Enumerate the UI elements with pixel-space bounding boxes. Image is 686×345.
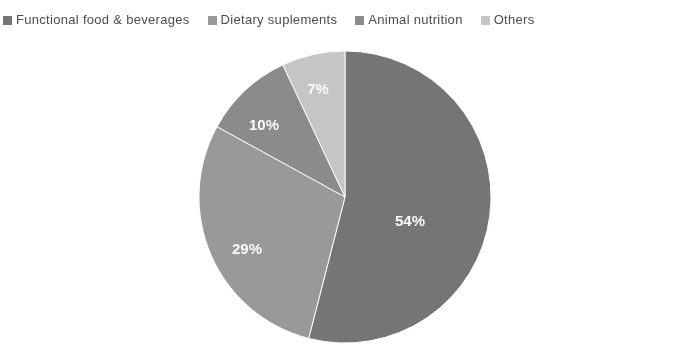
- chart-legend: Functional food & beverages Dietary supl…: [0, 8, 686, 32]
- legend-item-functional-food-and-beverages[interactable]: Functional food & beverages: [3, 13, 190, 27]
- pie-slice-label: 54%: [395, 212, 425, 229]
- legend-swatch-icon: [355, 16, 364, 25]
- legend-item-others[interactable]: Others: [481, 13, 535, 27]
- legend-swatch-icon: [208, 16, 217, 25]
- legend-swatch-icon: [481, 16, 490, 25]
- pie-chart-figure: Functional food & beverages Dietary supl…: [0, 0, 686, 345]
- legend-item-label: Functional food & beverages: [16, 13, 190, 27]
- legend-swatch-icon: [3, 16, 12, 25]
- legend-item-label: Dietary suplements: [221, 13, 338, 27]
- legend-item-animal-nutrition[interactable]: Animal nutrition: [355, 13, 462, 27]
- legend-item-label: Others: [494, 13, 535, 27]
- pie-plot-area: 54%29%10%7%: [198, 50, 492, 344]
- legend-item-label: Animal nutrition: [368, 13, 462, 27]
- pie-slice-label: 29%: [232, 240, 262, 257]
- legend-item-dietary-suplements[interactable]: Dietary suplements: [208, 13, 338, 27]
- pie-slice-group: [199, 51, 491, 343]
- pie-slice-label: 10%: [249, 116, 279, 133]
- pie-svg: 54%29%10%7%: [198, 50, 492, 344]
- pie-slice-label: 7%: [307, 80, 329, 97]
